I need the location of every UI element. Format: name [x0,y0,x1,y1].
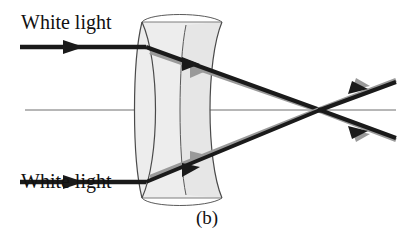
lens-bottom-rim [142,198,222,206]
label-white-light-bottom: White light [21,171,112,191]
doublet-lens [135,15,223,206]
lens-top-rim [142,15,222,23]
label-white-light-top: White light [21,12,112,32]
focal-point [317,107,322,112]
optics-ray-diagram-figure: White light White light (b) [0,0,414,247]
figure-caption: (b) [0,208,414,227]
